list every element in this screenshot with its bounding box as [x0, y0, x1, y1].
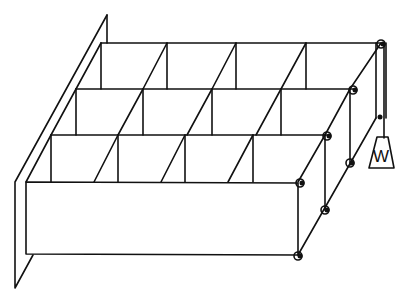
pegs: [294, 40, 386, 260]
peg-icon: [377, 40, 386, 48]
weight-label: W: [373, 147, 389, 166]
front-panel: [26, 182, 298, 255]
row-back: [101, 43, 381, 89]
peg-icon: [378, 115, 383, 120]
row-front: [26, 43, 327, 182]
diagram: W: [0, 0, 406, 298]
weight: W: [369, 137, 394, 168]
row-middle: [76, 89, 353, 135]
